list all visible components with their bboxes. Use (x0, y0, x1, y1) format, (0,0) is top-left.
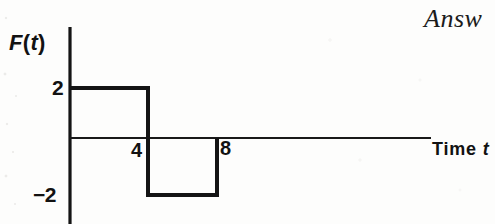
x-axis-label-text: Time (432, 139, 483, 159)
figure-canvas: F(t) 2 −2 4 8 Time t Answ (0, 0, 495, 224)
y-tick-label-negative-2: −2 (33, 184, 56, 205)
x-axis-label-variable: t (483, 139, 489, 159)
y-axis-label: F(t) (9, 32, 46, 54)
x-tick-label-4: 4 (131, 140, 142, 160)
square-wave-plot (0, 0, 495, 224)
y-axis-label-F: F (9, 30, 23, 55)
y-axis-label-variable: t (30, 30, 38, 55)
waveform-trace (70, 88, 217, 195)
x-tick-label-8: 8 (220, 138, 231, 158)
x-axis-label: Time t (432, 140, 489, 158)
y-tick-label-positive-2: 2 (52, 77, 64, 98)
answer-marker-text: Answ (424, 6, 482, 32)
y-axis-label-close-paren: ) (38, 30, 46, 55)
